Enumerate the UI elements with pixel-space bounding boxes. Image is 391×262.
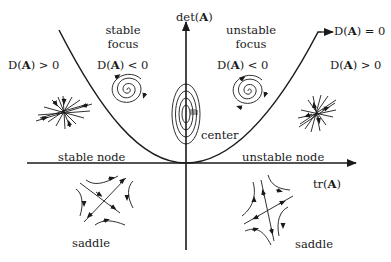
discriminant-zero-label: D(A) = 0	[334, 25, 385, 37]
d-suffix: ) = 0	[357, 24, 386, 38]
saddle-left-icon	[76, 176, 133, 225]
stable-node-star-icon	[36, 96, 92, 129]
saddle-right-icon	[242, 175, 293, 245]
trace-determinant-diagram	[0, 0, 391, 262]
det-label-prefix: det(	[176, 10, 199, 24]
discriminant-right-inner: D(A) < 0	[217, 59, 268, 71]
det-label-bold: A	[199, 10, 208, 24]
d-suffix: ) > 0	[353, 58, 382, 72]
unstable-focus-label: unstable focus	[223, 24, 279, 50]
d-prefix: D(	[330, 58, 344, 72]
tr-label-prefix: tr(	[313, 177, 328, 191]
discriminant-left-inner: D(A) < 0	[97, 59, 148, 71]
saddle-left-label: saddle	[72, 237, 110, 249]
tr-label-bold: A	[328, 177, 337, 191]
unstable-node-label: unstable node	[242, 151, 324, 163]
tr-axis-label: tr(A)	[313, 178, 341, 190]
tr-label-suffix: )	[337, 177, 342, 191]
d-prefix: D(	[334, 24, 348, 38]
unstable-node-star-icon	[298, 95, 336, 132]
axes	[27, 22, 356, 250]
stable-focus-spiral-icon	[112, 74, 145, 102]
d-prefix: D(	[217, 58, 231, 72]
d-bold: A	[348, 24, 357, 38]
stable-focus-line1: stable	[102, 24, 144, 36]
det-axis-label: det(A)	[176, 11, 213, 23]
discriminant-right-outer: D(A) > 0	[330, 59, 381, 71]
unstable-focus-line1: unstable	[223, 24, 279, 36]
center-label: center	[201, 129, 239, 141]
discriminant-zero-parabola	[59, 30, 322, 163]
d-bold: A	[22, 58, 31, 72]
d-bold: A	[344, 58, 353, 72]
stable-focus-line2: focus	[102, 38, 144, 50]
unstable-focus-line2: focus	[223, 38, 279, 50]
stable-focus-label: stable focus	[102, 24, 144, 50]
unstable-focus-spiral-icon	[233, 75, 266, 108]
saddle-right-label: saddle	[295, 238, 333, 250]
d-suffix: ) > 0	[31, 58, 60, 72]
stable-node-label: stable node	[58, 151, 125, 163]
d-prefix: D(	[97, 58, 111, 72]
d-suffix: ) < 0	[120, 58, 149, 72]
d-prefix: D(	[8, 58, 22, 72]
d-bold: A	[231, 58, 240, 72]
det-label-suffix: )	[208, 10, 213, 24]
discriminant-left-outer: D(A) > 0	[8, 59, 59, 71]
d-suffix: ) < 0	[240, 58, 269, 72]
d-bold: A	[111, 58, 120, 72]
